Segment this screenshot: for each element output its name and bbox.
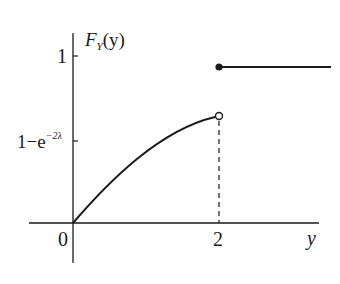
x-tick-label-2: 2	[213, 228, 223, 250]
cdf-curve	[73, 117, 215, 223]
origin-label: 0	[58, 228, 68, 250]
y-tick-label-one: 1	[57, 45, 67, 67]
closed-endpoint	[215, 63, 222, 70]
y-tick-label-jump-low: 1−e−2λ	[17, 130, 62, 152]
open-endpoint	[216, 113, 223, 120]
x-axis-label: y	[305, 227, 316, 250]
y-axis-label: FY(y)	[84, 29, 125, 52]
cdf-figure: FY(y) 1 1−e−2λ 0 2 y	[0, 0, 340, 284]
